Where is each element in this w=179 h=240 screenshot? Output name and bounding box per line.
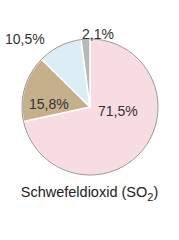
slice-label-grey: 2,1% [82,26,114,42]
slice-label-pink: 71,5% [98,103,138,119]
slice-label-blue: 10,5% [5,31,45,47]
chart-caption: Schwefeldioxid (SO2) [0,184,179,203]
slice-label-tan: 15,8% [29,96,69,112]
